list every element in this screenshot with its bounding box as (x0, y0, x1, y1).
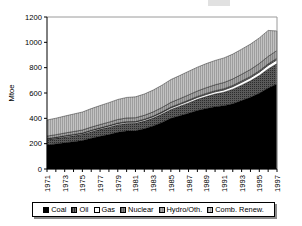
y-axis-title: Mtoe (7, 85, 16, 102)
x-tick-label: 1985 (167, 175, 176, 192)
y-tick-label: 600 (29, 89, 42, 98)
x-tick-label: 1987 (185, 175, 194, 192)
legend-swatch-icon (120, 207, 126, 213)
x-tick-label: 1973 (61, 175, 70, 192)
x-tick-label: 1997 (273, 175, 282, 192)
legend-label: Coal (51, 206, 66, 213)
legend-item-nuclear[interactable]: Nuclear (120, 206, 153, 213)
x-tick-label: 1977 (96, 175, 105, 192)
stacked-area-chart: 020040060080010001200 197119731975197719… (0, 8, 302, 194)
y-tick-label: 400 (29, 114, 42, 123)
legend-label: Nuclear (128, 206, 153, 213)
legend-label: Gas (102, 206, 116, 213)
y-axis-label: Mtoe (7, 85, 16, 102)
chart-legend: CoalOilGasNuclearHydro/Oth.Comb. Renew. (32, 202, 275, 217)
x-tick-label: 1971 (43, 175, 52, 192)
x-tick-label: 1981 (131, 175, 140, 192)
y-axis-ticks: 020040060080010001200 (25, 13, 47, 174)
legend-item-oil[interactable]: Oil (71, 206, 88, 213)
legend-swatch-icon (94, 207, 100, 213)
y-tick-label: 1000 (25, 38, 42, 47)
legend-label: Hydro/Oth. (167, 206, 203, 213)
legend-item-coal[interactable]: Coal (43, 206, 66, 213)
x-tick-label: 1975 (78, 175, 87, 192)
legend-label: Comb. Renew. (215, 206, 263, 213)
legend-swatch-icon (43, 207, 49, 213)
legend-swatch-icon (71, 207, 77, 213)
legend-label: Oil (79, 206, 88, 213)
chart-canvas: 020040060080010001200 197119731975197719… (0, 8, 302, 194)
x-tick-label: 1979 (114, 175, 123, 192)
chart-screenshot: 020040060080010001200 197119731975197719… (0, 0, 302, 226)
legend-swatch-icon (207, 207, 213, 213)
top-cropped-artifact (208, 0, 230, 6)
y-tick-label: 0 (38, 165, 42, 174)
x-axis-ticks: 1971197319751977197919811983198519871989… (43, 169, 282, 192)
x-tick-label: 1991 (220, 175, 229, 192)
y-tick-label: 1200 (25, 13, 42, 22)
x-tick-label: 1989 (202, 175, 211, 192)
legend-item-comb-renew[interactable]: Comb. Renew. (207, 206, 263, 213)
legend-swatch-icon (159, 207, 165, 213)
legend-item-hydro-oth[interactable]: Hydro/Oth. (159, 206, 203, 213)
y-tick-label: 200 (29, 139, 42, 148)
y-tick-label: 800 (29, 63, 42, 72)
x-tick-label: 1995 (255, 175, 264, 192)
x-tick-label: 1993 (238, 175, 247, 192)
x-tick-label: 1983 (149, 175, 158, 192)
legend-item-gas[interactable]: Gas (94, 206, 116, 213)
